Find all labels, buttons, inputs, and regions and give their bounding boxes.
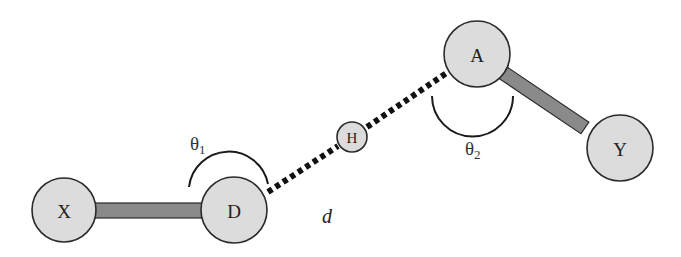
- atom-a: A: [444, 21, 510, 87]
- hydrogen-bond-h-a: [367, 72, 448, 127]
- atom-a-label: A: [470, 45, 484, 66]
- angle-theta2-label: θ2: [465, 138, 481, 162]
- atom-h: H: [337, 122, 367, 152]
- atom-x-label: X: [57, 201, 71, 222]
- atom-h-label: H: [347, 130, 358, 146]
- atom-y: Y: [587, 115, 653, 181]
- atom-d-label: D: [227, 201, 241, 222]
- atom-y-label: Y: [613, 139, 627, 160]
- atom-x: X: [32, 178, 96, 242]
- distance-d-label: d: [322, 205, 333, 227]
- hydrogen-bond-d-h: [268, 146, 338, 192]
- bond-a-y: [498, 66, 589, 134]
- hydrogen-bond-diagram: X D H A Y θ1 θ2 d: [0, 0, 681, 257]
- angle-theta2-arc: [432, 96, 513, 137]
- bond-x-d: [92, 203, 210, 218]
- angle-theta1-label: θ1: [190, 133, 206, 157]
- atom-d: D: [201, 177, 267, 243]
